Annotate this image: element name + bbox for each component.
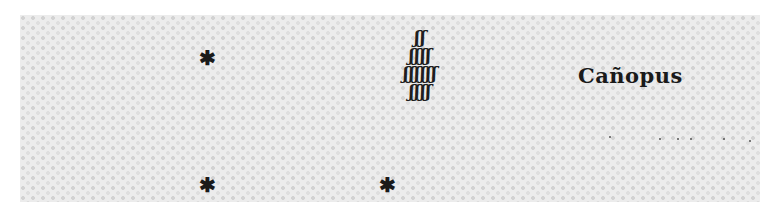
faint-star-dot — [749, 140, 751, 142]
faint-star-dot — [677, 138, 679, 140]
star-cluster-glyphs: ʃʃ ʃʃʃʃ ʃʃʃʃʃʃ ʃʃʃʃ — [365, 28, 475, 100]
star-chart-panel: ✱ ✱ ✱ ʃʃ ʃʃʃʃ ʃʃʃʃʃʃ ʃʃʃʃ Cañopus — [20, 15, 760, 202]
glyph-row: ʃʃ — [365, 28, 475, 46]
faint-star-dot — [609, 136, 611, 138]
glyph-row: ʃʃʃʃ — [365, 46, 475, 64]
star-icon: ✱ — [199, 48, 216, 68]
star-icon: ✱ — [199, 175, 216, 195]
faint-star-dot — [659, 138, 661, 140]
constellation-label: Cañopus — [578, 63, 683, 88]
glyph-row: ʃʃʃʃ — [365, 82, 475, 100]
star-icon: ✱ — [379, 175, 396, 195]
faint-star-dot — [690, 138, 692, 140]
glyph-row: ʃʃʃʃʃʃ — [365, 64, 475, 82]
faint-star-dot — [723, 138, 725, 140]
